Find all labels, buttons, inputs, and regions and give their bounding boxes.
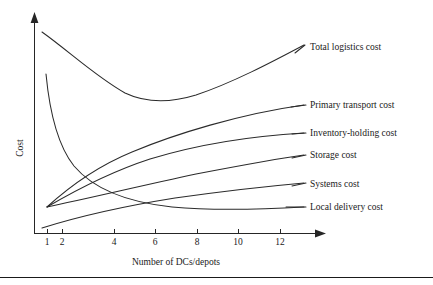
x-tick-label: 2 bbox=[60, 237, 65, 247]
series-label: Total logistics cost bbox=[310, 42, 381, 52]
cost-vs-depots-chart: 124681012 Total logistics costPrimary tr… bbox=[0, 0, 433, 285]
axes-group bbox=[31, 12, 326, 237]
series-label: Local delivery cost bbox=[310, 202, 383, 212]
series-curve bbox=[46, 74, 304, 209]
series-label: Storage cost bbox=[310, 150, 357, 160]
series-curve bbox=[47, 155, 304, 207]
arrow-right-icon bbox=[315, 230, 326, 238]
series-curve bbox=[42, 32, 304, 101]
x-tick-label: 10 bbox=[233, 237, 243, 247]
arrow-up-icon bbox=[31, 12, 39, 23]
x-axis-tick-marks bbox=[48, 229, 281, 234]
series-labels: Total logistics costPrimary transport co… bbox=[310, 42, 397, 212]
series-curve bbox=[47, 105, 304, 207]
x-tick-label: 12 bbox=[275, 237, 285, 247]
x-tick-label: 8 bbox=[195, 237, 200, 247]
series-label: Systems cost bbox=[310, 179, 360, 189]
x-tick-label: 6 bbox=[153, 237, 158, 247]
y-axis-title: Cost bbox=[15, 139, 25, 157]
x-axis-title: Number of DCs/depots bbox=[132, 257, 220, 267]
series-curves bbox=[42, 32, 304, 228]
series-curve bbox=[42, 183, 304, 228]
series-curve bbox=[47, 133, 304, 207]
x-tick-label: 4 bbox=[112, 237, 117, 247]
x-axis-tick-labels: 124681012 bbox=[45, 237, 285, 247]
series-label: Inventory-holding cost bbox=[310, 128, 397, 138]
x-tick-label: 1 bbox=[45, 237, 50, 247]
series-label: Primary transport cost bbox=[310, 100, 395, 110]
figure-container: 124681012 Total logistics costPrimary tr… bbox=[0, 0, 433, 285]
